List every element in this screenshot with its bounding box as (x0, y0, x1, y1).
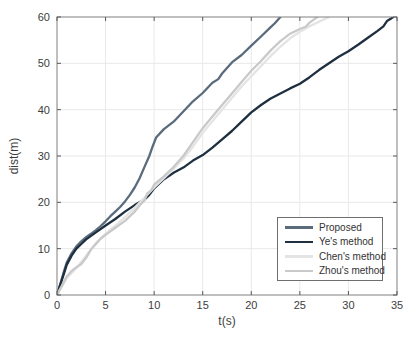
chart-canvas: 051015202530350102030405060 (0, 0, 418, 348)
x-tick-label: 15 (197, 299, 209, 311)
figure: 051015202530350102030405060 t(s) dist(m)… (0, 0, 418, 348)
y-tick-label: 20 (38, 196, 50, 208)
x-tick-label: 5 (103, 299, 109, 311)
x-tick-label: 20 (245, 299, 257, 311)
x-tick-label: 0 (54, 299, 60, 311)
y-tick-label: 40 (38, 104, 50, 116)
y-tick-label: 10 (38, 243, 50, 255)
x-tick-label: 25 (294, 299, 306, 311)
legend-line-sample (285, 255, 313, 258)
x-tick-label: 30 (342, 299, 354, 311)
legend-label: Zhou's method (319, 265, 385, 276)
legend-line-sample (285, 226, 313, 229)
x-tick-label: 10 (148, 299, 160, 311)
y-tick-label: 50 (38, 57, 50, 69)
legend-line-sample (285, 241, 313, 244)
y-tick-label: 60 (38, 11, 50, 23)
y-tick-label: 0 (44, 289, 50, 301)
y-tick-label: 30 (38, 150, 50, 162)
x-axis-label: t(s) (57, 314, 397, 328)
legend-item: Proposed (278, 221, 382, 234)
legend-item: Ye's method (278, 235, 382, 248)
legend-item: Chen's method (278, 250, 382, 263)
legend-line-sample (285, 270, 313, 273)
legend: Proposed Ye's method Chen's method Zhou'… (277, 217, 383, 281)
x-tick-label: 35 (391, 299, 403, 311)
legend-label: Ye's method (319, 236, 373, 247)
legend-item: Zhou's method (278, 264, 382, 277)
legend-label: Proposed (319, 222, 362, 233)
legend-label: Chen's method (319, 251, 386, 262)
y-axis-label: dist(m) (7, 138, 21, 175)
